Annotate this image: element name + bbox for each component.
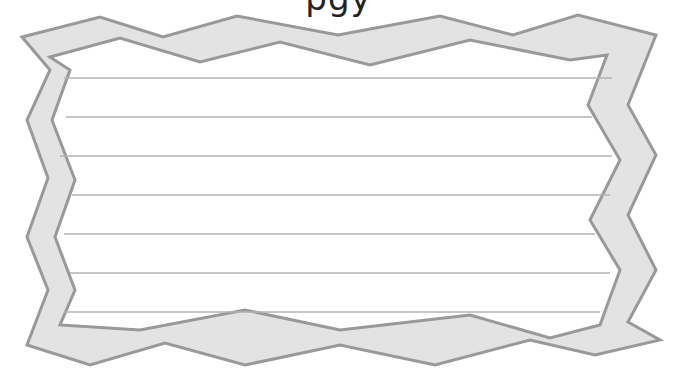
frame-inner-panel	[50, 38, 620, 338]
zigzag-frame	[0, 0, 677, 380]
